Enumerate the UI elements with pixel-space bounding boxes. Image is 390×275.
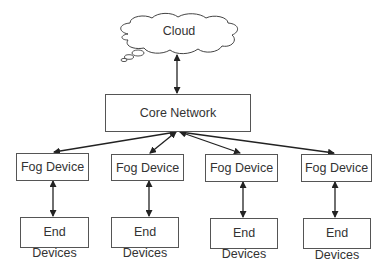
fog-device-node-3: Fog Device xyxy=(205,154,278,182)
core-network-label: Core Network xyxy=(140,106,216,120)
end-devices-node-1: End xyxy=(20,217,89,248)
end-devices-label-bottom: Devices xyxy=(20,246,89,260)
end-devices-label-top: End xyxy=(43,225,65,239)
edge-core-fog-4 xyxy=(180,132,334,153)
end-devices-label-bottom: Devices xyxy=(210,247,278,261)
fog-device-label: Fog Device xyxy=(116,161,179,175)
end-devices-label-top: End xyxy=(233,226,255,240)
fog-device-label: Fog Device xyxy=(21,160,84,174)
fog-device-label: Fog Device xyxy=(210,161,273,175)
cloud-label: Cloud xyxy=(150,24,208,38)
end-devices-label-bottom: Devices xyxy=(111,246,179,260)
end-devices-label-top: End xyxy=(134,225,156,239)
end-devices-node-4: End xyxy=(303,218,371,249)
fog-device-label: Fog Device xyxy=(305,161,368,175)
edge-core-fog-1 xyxy=(54,132,176,152)
core-network-node: Core Network xyxy=(105,94,251,132)
fog-device-node-2: Fog Device xyxy=(111,154,184,181)
end-devices-label-top: End xyxy=(326,226,348,240)
fog-device-node-1: Fog Device xyxy=(16,153,89,181)
end-devices-node-3: End xyxy=(210,218,278,249)
edge-core-fog-3 xyxy=(180,132,240,153)
end-devices-node-2: End xyxy=(111,217,179,248)
fog-device-node-4: Fog Device xyxy=(301,154,372,182)
end-devices-label-bottom: Devices xyxy=(303,248,371,262)
